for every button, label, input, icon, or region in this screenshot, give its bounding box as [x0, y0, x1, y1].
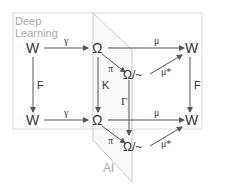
deep-learning-label-line1: Deep	[15, 16, 41, 27]
label-mu-star-top: μ*	[161, 67, 171, 77]
label-gamma-bottom: γ	[64, 108, 68, 118]
label-gamma-top: γ	[64, 36, 68, 46]
label-gamma-cap: Γ	[121, 96, 127, 107]
label-mu-star-bottom: μ*	[161, 139, 171, 149]
ai-label: AI	[103, 162, 114, 174]
label-pi-top: π	[108, 64, 113, 74]
label-mu-bottom: μ	[154, 108, 159, 118]
node-omega-quot-top: Ω/~	[123, 69, 142, 81]
label-f-left: F	[37, 80, 44, 91]
label-mu-top: μ	[154, 36, 159, 46]
node-omega-quot-bottom: Ω/~	[123, 141, 142, 153]
label-k: K	[102, 80, 109, 91]
node-omega-bottom: Ω	[92, 113, 102, 127]
deep-learning-label-line2: Learning	[15, 28, 58, 39]
node-w-bottom-right: W	[185, 113, 198, 127]
label-pi-bottom: π	[108, 136, 113, 146]
node-w-top-right: W	[185, 41, 198, 55]
node-w-top-left: W	[26, 41, 39, 55]
node-w-bottom-left: W	[26, 113, 39, 127]
node-omega-top: Ω	[92, 41, 102, 55]
label-f-right: F	[194, 80, 201, 91]
